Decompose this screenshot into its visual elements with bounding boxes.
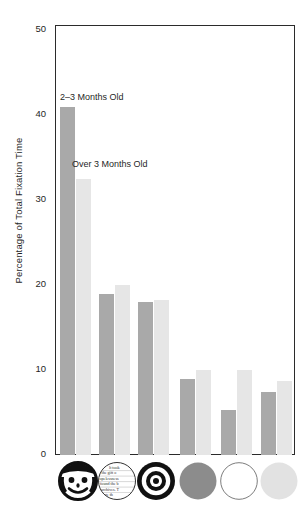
bar-yellow-circle-series-1: [277, 381, 292, 455]
stimulus-icon-row: lt took the gift o opelessness found the…: [0, 461, 302, 505]
series-label-over-3-months: Over 3 Months Old: [72, 159, 148, 169]
bar-white-circle-series-0: [221, 410, 236, 455]
bar-white-circle-series-1: [237, 370, 252, 455]
smiley-face-icon: [58, 461, 98, 501]
bullseye-icon: [136, 461, 176, 501]
red-circle-icon: [178, 461, 218, 501]
bar-red-circle-series-1: [196, 370, 211, 455]
bar-red-circle-series-0: [180, 379, 195, 456]
bar-face-series-1: [76, 179, 91, 455]
bar-group-container: [0, 0, 302, 508]
newsprint-icon: lt took the gift o opelessness found the…: [97, 461, 137, 501]
fixation-time-bar-chart: Percentage of Total Fixation Time 50 40 …: [0, 0, 302, 508]
series-label-2-3-months: 2–3 Months Old: [60, 92, 124, 102]
bar-newsprint-series-1: [115, 285, 130, 455]
bar-newsprint-series-0: [99, 294, 114, 456]
bar-yellow-circle-series-0: [261, 392, 276, 455]
svg-text:lt took: lt took: [109, 465, 121, 470]
white-circle-icon: [219, 461, 259, 501]
yellow-circle-icon: [259, 461, 299, 501]
bar-bullseye-series-1: [154, 300, 169, 455]
bar-bullseye-series-0: [138, 302, 153, 455]
